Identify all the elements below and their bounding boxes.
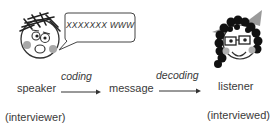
node-speaker: speaker (17, 82, 56, 94)
role-interviewer: (interviewer) (5, 111, 66, 123)
speech-bubble-text: XXXXXXX WWW (66, 20, 134, 30)
edge-label-decoding: decoding (156, 69, 199, 81)
node-message: message (109, 82, 154, 94)
speech-bubble-shape (55, 12, 137, 54)
listener-face-icon (204, 2, 274, 70)
node-listener: listener (218, 80, 253, 92)
edge-label-coding: coding (61, 70, 92, 82)
role-interviewed: (interviewed) (207, 109, 270, 121)
arrow-decoding-icon (158, 87, 202, 95)
arrow-coding-icon (60, 88, 102, 96)
